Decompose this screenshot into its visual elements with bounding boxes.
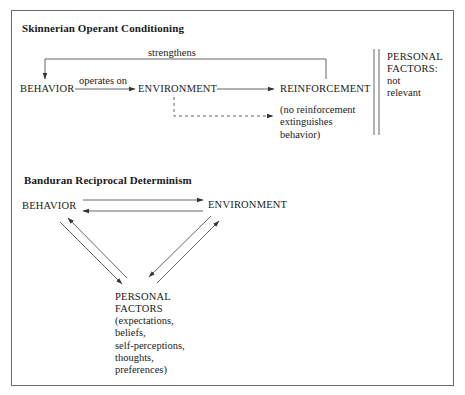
no-reinforcement-note: (no reinforcement extinguishes behavior): [280, 104, 356, 141]
skinner-personal-factors-label: PERSONAL FACTORS:: [387, 51, 443, 76]
skinner-environment-node: ENVIRONMENT: [138, 83, 217, 95]
bandura-personal-factors-detail: (expectations, beliefs, self-perceptions…: [115, 315, 185, 376]
strengthens-label: strengthens: [148, 47, 196, 59]
bandura-environment-node: ENVIRONMENT: [208, 199, 287, 211]
personal-to-environment-arrow: [157, 221, 219, 283]
operates-on-label: operates on: [79, 75, 127, 87]
skinner-personal-factors-note: not relevant: [387, 75, 421, 100]
bandura-behavior-node: BEHAVIOR: [22, 200, 77, 212]
personal-to-behavior-arrow: [68, 218, 127, 278]
bandura-personal-factors-node: PERSONAL FACTORS: [115, 291, 171, 316]
skinner-title: Skinnerian Operant Conditioning: [22, 22, 184, 34]
environment-to-personal-arrow: [149, 216, 211, 277]
skinner-reinforcement-node: REINFORCEMENT: [280, 83, 371, 95]
no-reinforcement-dashed-arrow: [174, 97, 273, 116]
bandura-title: Banduran Reciprocal Determinism: [24, 174, 192, 186]
skinner-behavior-node: BEHAVIOR: [20, 83, 75, 95]
behavior-to-personal-arrow: [60, 222, 122, 284]
